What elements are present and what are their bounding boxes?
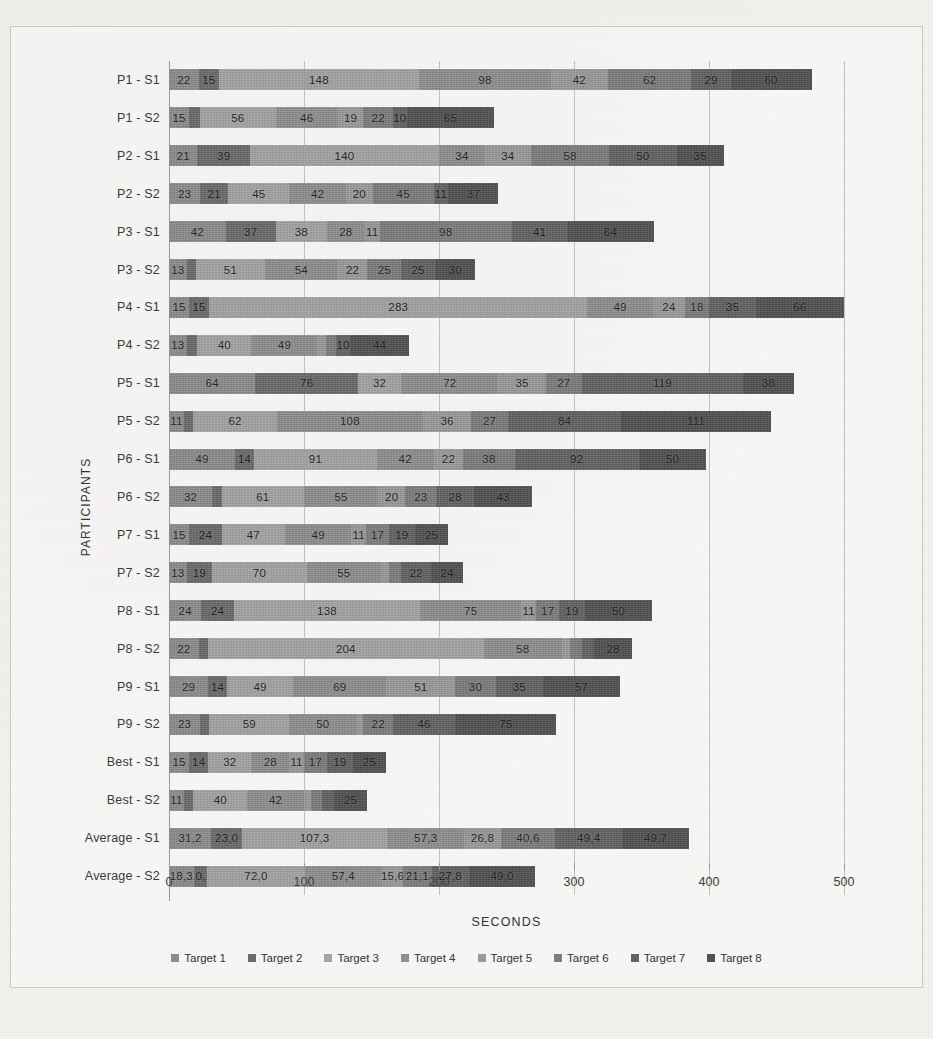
bar-segment-target-4[interactable]: 98: [419, 69, 551, 90]
bar-row[interactable]: Best - S2117404258925: [169, 790, 844, 811]
legend-item-target-7[interactable]: Target 7: [631, 952, 686, 964]
bar-segment-target-7[interactable]: 9: [322, 790, 334, 811]
bar-segment-target-5[interactable]: 22: [338, 259, 368, 280]
bar-segment-target-5[interactable]: 36: [423, 411, 472, 432]
bar-segment-target-6[interactable]: 8: [326, 335, 337, 356]
bar-segment-target-8[interactable]: 64: [567, 221, 653, 242]
bar-row[interactable]: P5 - S164763272352711938: [169, 373, 844, 394]
bar-segment-target-4[interactable]: 54: [265, 259, 338, 280]
bar-segment-target-7[interactable]: 9: [582, 638, 594, 659]
bar-segment-target-8[interactable]: 44: [350, 335, 409, 356]
bar-segment-target-6[interactable]: 21,1: [403, 866, 431, 887]
bar-row[interactable]: P6 - S14914914222389250: [169, 449, 844, 470]
bar-row[interactable]: Average - S131,223,0107,357,326,840,649,…: [169, 828, 844, 849]
bar-segment-target-1[interactable]: 18,3: [169, 866, 194, 887]
bar-segment-target-1[interactable]: 23: [169, 183, 200, 204]
bar-segment-target-3[interactable]: 70: [212, 562, 307, 583]
bar-segment-target-1[interactable]: 15: [169, 524, 189, 545]
bar-segment-target-6[interactable]: 45: [373, 183, 434, 204]
bar-segment-target-4[interactable]: 57,3: [387, 828, 464, 849]
bar-segment-target-1[interactable]: 15: [169, 297, 189, 318]
bar-segment-target-5[interactable]: 6: [317, 335, 325, 356]
bar-row[interactable]: P9 - S223759505224675: [169, 714, 844, 735]
bar-segment-target-1[interactable]: 13: [169, 562, 187, 583]
bar-segment-target-3[interactable]: 49: [227, 676, 293, 697]
bar-segment-target-5[interactable]: 20: [346, 183, 373, 204]
bar-segment-target-2[interactable]: 7: [212, 486, 221, 507]
bar-segment-target-7[interactable]: 19: [389, 524, 415, 545]
bar-segment-target-2[interactable]: 8: [187, 335, 198, 356]
bar-segment-target-7[interactable]: 84: [508, 411, 621, 432]
bar-segment-target-6[interactable]: 38: [463, 449, 514, 470]
bar-segment-target-2[interactable]: 15: [199, 69, 219, 90]
bar-segment-target-5[interactable]: 5: [357, 714, 364, 735]
bar-segment-target-2[interactable]: 7: [184, 411, 193, 432]
bar-segment-target-8[interactable]: 25: [334, 790, 368, 811]
bar-segment-target-7[interactable]: 41: [512, 221, 567, 242]
bar-segment-target-1[interactable]: 24: [169, 600, 201, 621]
legend-item-target-1[interactable]: Target 1: [171, 952, 226, 964]
bar-segment-target-5[interactable]: 11: [365, 221, 380, 242]
bar-segment-target-6[interactable]: 9: [389, 562, 401, 583]
legend-item-target-3[interactable]: Target 3: [324, 952, 379, 964]
bar-segment-target-6[interactable]: 27: [546, 373, 582, 394]
bar-segment-target-4[interactable]: 42: [247, 790, 304, 811]
bar-segment-target-5[interactable]: 35: [498, 373, 545, 394]
bar-row[interactable]: P2 - S22321454220451137: [169, 183, 844, 204]
bar-segment-target-4[interactable]: 46: [276, 107, 338, 128]
bar-segment-target-1[interactable]: 15: [169, 107, 189, 128]
bar-row[interactable]: Average - S218,310,172,057,415,621,127,8…: [169, 866, 844, 887]
bar-segment-target-7[interactable]: 25: [401, 259, 435, 280]
bar-segment-target-8[interactable]: 28: [594, 638, 632, 659]
bar-segment-target-7[interactable]: 119: [582, 373, 743, 394]
bar-segment-target-2[interactable]: 23,0: [211, 828, 242, 849]
bar-segment-target-4[interactable]: 108: [277, 411, 423, 432]
bar-segment-target-1[interactable]: 22: [169, 69, 199, 90]
bar-segment-target-3[interactable]: 32: [358, 373, 401, 394]
bar-segment-target-7[interactable]: 22: [401, 562, 431, 583]
bar-segment-target-8[interactable]: 35: [677, 145, 724, 166]
bar-segment-target-4[interactable]: 50: [289, 714, 357, 735]
bar-segment-target-5[interactable]: 34: [485, 145, 531, 166]
bar-segment-target-5[interactable]: 42: [551, 69, 608, 90]
bar-segment-target-4[interactable]: 42: [377, 449, 434, 470]
bar-segment-target-3[interactable]: 47: [222, 524, 285, 545]
bar-segment-target-5[interactable]: 11: [289, 752, 304, 773]
bar-segment-target-5[interactable]: 15,6: [382, 866, 403, 887]
bar-segment-target-7[interactable]: 29: [691, 69, 730, 90]
bar-row[interactable]: P7 - S11524474911171925: [169, 524, 844, 545]
bar-segment-target-4[interactable]: 42: [289, 183, 346, 204]
bar-row[interactable]: P2 - S121391403434585035: [169, 145, 844, 166]
bar-segment-target-6[interactable]: 27: [471, 411, 507, 432]
bar-segment-target-8[interactable]: 75: [455, 714, 556, 735]
bar-segment-target-6[interactable]: 22: [363, 714, 393, 735]
bar-segment-target-8[interactable]: 57: [543, 676, 620, 697]
bar-row[interactable]: P4 - S115152834924183566: [169, 297, 844, 318]
bar-segment-target-1[interactable]: 32: [169, 486, 212, 507]
bar-row[interactable]: P3 - S2137515422252530: [169, 259, 844, 280]
bar-segment-target-4[interactable]: 55: [304, 486, 378, 507]
legend-item-target-5[interactable]: Target 5: [478, 952, 533, 964]
bar-segment-target-6[interactable]: 62: [608, 69, 692, 90]
bar-segment-target-2[interactable]: 37: [226, 221, 276, 242]
bar-segment-target-3[interactable]: 32: [208, 752, 251, 773]
bar-segment-target-6[interactable]: 17: [304, 752, 327, 773]
bar-segment-target-2[interactable]: 24: [201, 600, 233, 621]
bar-segment-target-5[interactable]: 5: [304, 790, 311, 811]
bar-segment-target-7[interactable]: 10: [336, 335, 350, 356]
bar-row[interactable]: P8 - S22272045869928: [169, 638, 844, 659]
bar-segment-target-4[interactable]: 49: [285, 524, 351, 545]
bar-segment-target-6[interactable]: 17: [536, 600, 559, 621]
bar-segment-target-6[interactable]: 30: [455, 676, 496, 697]
bar-segment-target-7[interactable]: 28: [436, 486, 474, 507]
bar-segment-target-4[interactable]: 28: [327, 221, 365, 242]
bar-segment-target-7[interactable]: 35: [496, 676, 543, 697]
bar-segment-target-1[interactable]: 31,2: [169, 828, 211, 849]
bar-segment-target-7[interactable]: 19: [559, 600, 585, 621]
bar-segment-target-3[interactable]: 40: [197, 335, 251, 356]
bar-segment-target-4[interactable]: 58: [484, 638, 562, 659]
bar-segment-target-3[interactable]: 91: [254, 449, 377, 470]
bar-segment-target-6[interactable]: 8: [311, 790, 322, 811]
bar-segment-target-4[interactable]: 57,4: [305, 866, 382, 887]
bar-segment-target-8[interactable]: 49,7: [622, 828, 689, 849]
